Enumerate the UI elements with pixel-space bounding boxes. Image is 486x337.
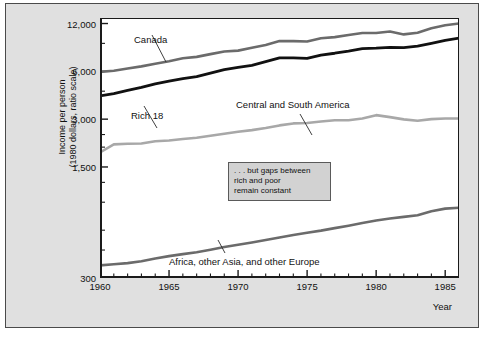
annotation-line-2: rich and poor — [234, 176, 325, 186]
plot-area — [100, 18, 459, 278]
series-label: Canada — [134, 34, 167, 45]
annotation-box: . . . but gaps between rich and poor rem… — [228, 162, 331, 201]
x-axis-title: Year — [433, 301, 452, 312]
y-tick-label: 1,500 — [72, 161, 96, 172]
x-tick-label: 1985 — [435, 281, 456, 292]
series-label: Central and South America — [236, 99, 350, 110]
chart-figure: Income per person (1980 dollars, ratio s… — [0, 0, 486, 337]
x-tick-label: 1960 — [89, 281, 110, 292]
y-tick-label: 6,000 — [72, 66, 96, 77]
series-label: Rich 18 — [131, 110, 163, 121]
plot-svg — [100, 18, 459, 278]
annotation-line-3: remain constant — [234, 186, 325, 196]
annotation-line-1: . . . but gaps between — [234, 166, 325, 176]
y-tick-label: 12,000 — [67, 18, 96, 29]
label-leader-line — [300, 114, 312, 135]
y-tick-label: 3,000 — [72, 114, 96, 125]
x-tick-label: 1965 — [158, 281, 179, 292]
x-tick-label: 1975 — [297, 281, 318, 292]
x-tick-label: 1980 — [366, 281, 387, 292]
series-line-rich-18 — [100, 38, 459, 96]
chart-panel: Income per person (1980 dollars, ratio s… — [5, 3, 479, 328]
series-label: Africa, other Asia, and other Europe — [169, 256, 320, 267]
x-tick-label: 1970 — [227, 281, 248, 292]
x-axis-tick-labels: 196019651970197519801985 — [6, 281, 486, 297]
